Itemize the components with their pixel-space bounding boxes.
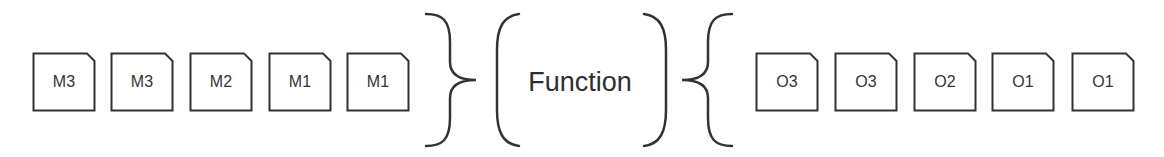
input-document: M3 [32,52,96,112]
right-parenthesis-icon [640,12,670,148]
document-label: M2 [189,52,253,112]
document-label: M3 [32,52,96,112]
output-document: O2 [913,52,977,112]
input-document: M1 [346,52,410,112]
output-document: O3 [834,52,898,112]
document-label: O3 [755,52,819,112]
input-document: M1 [268,52,332,112]
document-label: M1 [346,52,410,112]
output-document: O1 [1071,52,1135,112]
left-parenthesis-icon [493,12,523,148]
input-document: M2 [189,52,253,112]
input-document: M3 [110,52,174,112]
document-label: M1 [268,52,332,112]
output-document: O3 [755,52,819,112]
diagram-canvas: M3 M3 M2 M1 M1 Function [0,0,1164,157]
document-label: M3 [110,52,174,112]
document-label: O2 [913,52,977,112]
document-label: O3 [834,52,898,112]
function-label: Function [520,60,640,104]
right-curly-brace-icon [424,12,480,148]
document-label: O1 [1071,52,1135,112]
output-document: O1 [991,52,1055,112]
left-curly-brace-icon [678,12,734,148]
document-label: O1 [991,52,1055,112]
